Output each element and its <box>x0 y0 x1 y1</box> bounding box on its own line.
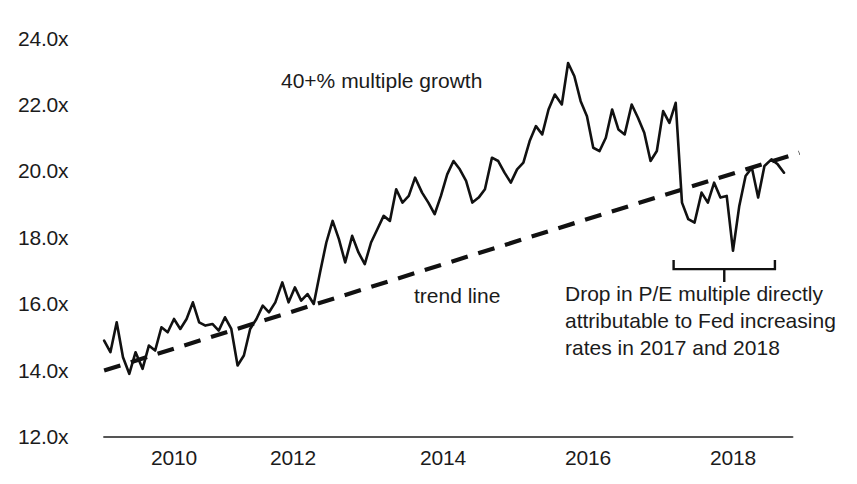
annotation-fed-rate-drop-line-1: Drop in P/E multiple directly <box>565 281 857 308</box>
annotation-trend-line: trend line <box>414 283 500 310</box>
annotation-multiple-growth: 40+% multiple growth <box>281 68 482 95</box>
annotation-fed-rate-drop-line-2: attributable to Fed increasing <box>565 308 857 335</box>
x-tick-label-2018: 2018 <box>710 446 756 470</box>
y-tick-label-24: 24.0x <box>18 27 68 51</box>
y-tick-label-18: 18.0x <box>18 226 68 250</box>
y-tick-label-22: 22.0x <box>18 93 68 117</box>
x-tick-label-2016: 2016 <box>565 446 611 470</box>
y-tick-label-16: 16.0x <box>18 292 68 316</box>
y-tick-label-14: 14.0x <box>18 359 68 383</box>
x-tick-label-2014: 2014 <box>420 446 466 470</box>
chart-container: 24.0x 22.0x 20.0x 18.0x 16.0x 14.0x 12.0… <box>0 0 857 484</box>
y-tick-label-20: 20.0x <box>18 159 68 183</box>
x-tick-label-2012: 2012 <box>270 446 316 470</box>
y-tick-label-12: 12.0x <box>18 425 68 449</box>
drop-bracket-icon <box>674 260 775 282</box>
x-tick-label-2010: 2010 <box>151 446 197 470</box>
annotation-fed-rate-drop: Drop in P/E multiple directly attributab… <box>565 281 857 362</box>
annotation-fed-rate-drop-line-3: rates in 2017 and 2018 <box>565 335 857 362</box>
